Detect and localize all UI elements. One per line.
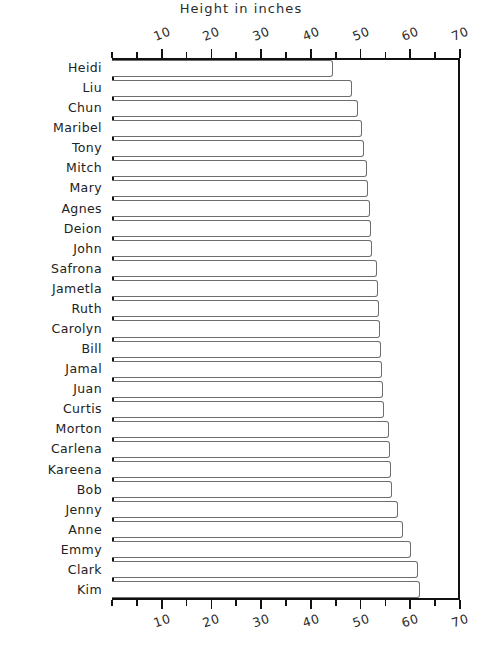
bar-kareena [112, 461, 391, 478]
tick-bottom-70 [459, 600, 461, 609]
x-tick-label-top-20: 20 [201, 23, 222, 43]
y-label-jenny: Jenny [65, 504, 102, 517]
bar-juan [112, 381, 383, 398]
y-label-agnes: Agnes [61, 203, 102, 216]
y-label-morton: Morton [56, 423, 102, 436]
bar-heidi [112, 60, 333, 77]
bar-tony [112, 140, 364, 157]
bar-maribel [112, 120, 362, 137]
tick-bottom-60 [409, 600, 411, 609]
bar-liu [112, 80, 352, 97]
tick-bottom-45 [335, 600, 337, 606]
bar-row [112, 439, 460, 459]
x-tick-label-top-70: 70 [449, 23, 470, 43]
bar-row [112, 379, 460, 399]
bar-row [112, 259, 460, 279]
tick-bottom-15 [186, 600, 188, 606]
bar-chun [112, 100, 358, 117]
tick-bottom-10 [161, 600, 163, 609]
y-label-mary: Mary [69, 182, 102, 195]
y-label-clark: Clark [68, 564, 102, 577]
bar-row [112, 520, 460, 540]
y-label-kareena: Kareena [48, 464, 102, 477]
y-label-tony: Tony [72, 142, 102, 155]
bar-row [112, 399, 460, 419]
tick-bottom-20 [211, 600, 213, 609]
y-label-carolyn: Carolyn [52, 323, 103, 336]
y-label-heidi: Heidi [68, 62, 102, 75]
bar-ruth [112, 300, 379, 317]
x-tick-label-top-10: 10 [151, 23, 172, 43]
y-axis-category-labels: HeidiLiuChunMaribelTonyMitchMaryAgnesDei… [0, 58, 108, 600]
bar-row [112, 219, 460, 239]
bar-agnes [112, 200, 370, 217]
y-label-jamal: Jamal [65, 363, 102, 376]
bar-row [112, 540, 460, 560]
bar-row [112, 98, 460, 118]
tick-bottom-25 [235, 600, 237, 606]
bar-row [112, 118, 460, 138]
tick-top-30 [260, 49, 262, 58]
y-label-john: John [73, 243, 102, 256]
tick-top-10 [161, 49, 163, 58]
bar-row [112, 560, 460, 580]
tick-bottom-30 [260, 600, 262, 609]
bar-jamal [112, 361, 382, 378]
x-tick-label-top-30: 30 [250, 23, 271, 43]
x-tick-label-bottom-70: 70 [450, 611, 471, 631]
y-label-chun: Chun [68, 102, 102, 115]
bar-row [112, 319, 460, 339]
y-label-emmy: Emmy [61, 544, 102, 557]
tick-bottom-50 [360, 600, 362, 609]
x-tick-label-top-60: 60 [400, 23, 421, 43]
tick-bottom-5 [136, 600, 138, 606]
bar-carolyn [112, 320, 380, 337]
bar-clark [112, 561, 418, 578]
bar-carlena [112, 441, 390, 458]
y-label-jametla: Jametla [52, 283, 102, 296]
bar-safrona [112, 260, 377, 277]
x-tick-label-top-40: 40 [300, 23, 321, 43]
bar-row [112, 158, 460, 178]
x-tick-label-bottom-50: 50 [350, 611, 371, 631]
bar-kim [112, 581, 420, 598]
tick-bottom-55 [385, 600, 387, 606]
y-label-safrona: Safrona [51, 263, 102, 276]
tick-top-50 [360, 49, 362, 58]
x-tick-label-bottom-30: 30 [251, 611, 272, 631]
y-label-kim: Kim [77, 584, 102, 597]
tick-bottom-35 [285, 600, 287, 606]
x-tick-label-bottom-10: 10 [151, 611, 172, 631]
tick-bottom-65 [434, 600, 436, 606]
tick-top-40 [310, 49, 312, 58]
x-tick-label-bottom-20: 20 [201, 611, 222, 631]
bar-mary [112, 180, 368, 197]
y-label-curtis: Curtis [63, 403, 102, 416]
tick-bottom-0 [111, 600, 113, 606]
x-tick-label-top-50: 50 [350, 23, 371, 43]
y-label-juan: Juan [73, 383, 102, 396]
bar-row [112, 78, 460, 98]
bar-row [112, 299, 460, 319]
tick-bottom-40 [310, 600, 312, 609]
y-label-bob: Bob [77, 484, 102, 497]
bar-row [112, 480, 460, 500]
bar-emmy [112, 541, 411, 558]
bar-anne [112, 521, 403, 538]
bar-row [112, 339, 460, 359]
bar-row [112, 199, 460, 219]
bar-mitch [112, 160, 367, 177]
bar-bob [112, 481, 392, 498]
bar-row [112, 459, 460, 479]
bar-deion [112, 220, 371, 237]
bar-row [112, 279, 460, 299]
tick-top-70 [459, 49, 461, 58]
y-label-anne: Anne [68, 524, 102, 537]
x-tick-label-bottom-60: 60 [400, 611, 421, 631]
bar-jenny [112, 501, 398, 518]
bar-series [112, 58, 460, 600]
bar-morton [112, 421, 389, 438]
bar-curtis [112, 401, 384, 418]
bar-chart: Height in inches 10102020303040405050606… [0, 0, 482, 666]
bar-row [112, 58, 460, 78]
